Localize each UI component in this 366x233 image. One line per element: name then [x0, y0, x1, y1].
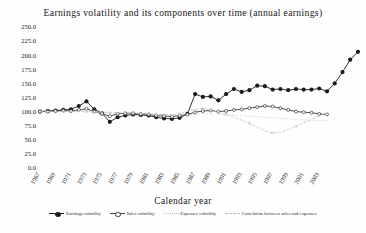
legend-label: Earnings volatility	[66, 211, 101, 216]
data-series-layer	[38, 50, 360, 134]
x-tick-label: 1989	[199, 171, 211, 185]
legend-swatch-icon	[225, 211, 240, 216]
x-tick-label: 1969	[44, 171, 56, 185]
x-tick-label: 2003	[308, 171, 320, 185]
x-axis-tick-labels: 1967196919711973197519771979198119831985…	[29, 171, 320, 185]
data-point-marker	[348, 58, 352, 62]
data-point-marker	[302, 88, 306, 92]
data-point-marker	[108, 120, 112, 124]
legend-swatch-icon	[110, 211, 125, 216]
data-point-marker	[147, 113, 150, 116]
y-tick-label: 125.0	[21, 94, 37, 101]
data-point-marker	[356, 50, 360, 54]
x-tick-label: 1977	[106, 171, 118, 185]
legend-item[interactable]: Correlation between sales and expenses	[225, 211, 316, 216]
data-point-marker	[263, 105, 266, 108]
data-point-marker	[333, 81, 337, 85]
x-tick-label: 1973	[75, 171, 87, 185]
data-point-marker	[240, 90, 244, 94]
y-tick-label: 75.0	[24, 122, 36, 129]
x-tick-label: 1993	[230, 171, 242, 185]
data-point-marker	[209, 94, 213, 98]
y-tick-label: 100.0	[21, 108, 37, 115]
legend-label: Expenses volatility	[180, 211, 216, 216]
data-point-marker	[186, 113, 189, 116]
y-tick-label: 150.0	[21, 80, 37, 87]
data-point-marker	[216, 98, 220, 102]
y-tick-label: 0.0	[28, 164, 37, 171]
data-point-marker	[70, 110, 73, 113]
y-axis-tick-labels: 0.025.050.075.0100.0125.0150.0175.0200.0…	[21, 23, 37, 171]
data-point-marker	[248, 107, 251, 110]
y-tick-label: 25.0	[24, 150, 36, 157]
x-tick-label: 1997	[261, 171, 273, 185]
data-point-marker	[108, 115, 111, 118]
x-tick-label: 1971	[60, 171, 72, 185]
legend-item[interactable]: Sales volatility	[110, 211, 155, 216]
data-point-marker	[286, 88, 290, 92]
chart-legend: Earnings volatilitySales volatilityExpen…	[0, 211, 366, 216]
x-tick-label: 1981	[137, 171, 149, 185]
data-point-marker	[77, 108, 80, 111]
data-point-marker	[170, 115, 173, 118]
x-tick-label: 1967	[29, 171, 41, 185]
data-point-marker	[271, 88, 275, 92]
data-point-marker	[340, 70, 344, 74]
legend-swatch-icon	[164, 211, 179, 216]
data-point-marker	[54, 110, 57, 113]
data-point-marker	[271, 105, 274, 108]
series-line	[40, 108, 327, 133]
data-point-marker	[85, 107, 88, 110]
data-point-marker	[225, 110, 228, 113]
x-tick-label: 1975	[91, 171, 103, 185]
data-point-marker	[317, 86, 321, 90]
data-point-marker	[295, 110, 298, 113]
data-point-marker	[302, 111, 305, 114]
y-tick-label: 200.0	[21, 52, 37, 59]
x-tick-label: 1987	[184, 171, 196, 185]
legend-item[interactable]: Expenses volatility	[164, 211, 217, 216]
x-axis-title: Calendar year	[0, 196, 366, 206]
chart-figure: Earnings volatility and its components o…	[0, 0, 366, 233]
x-tick-label: 1995	[246, 171, 258, 185]
data-point-marker	[309, 88, 313, 92]
data-point-marker	[77, 104, 81, 108]
data-point-marker	[278, 87, 282, 91]
x-tick-label: 1999	[277, 171, 289, 185]
x-tick-label: 1991	[215, 171, 227, 185]
y-tick-label: 250.0	[21, 23, 37, 30]
data-point-marker	[255, 84, 259, 88]
data-point-marker	[240, 108, 243, 111]
data-point-marker	[201, 110, 204, 113]
data-point-marker	[201, 95, 205, 99]
legend-item[interactable]: Earnings volatility	[49, 211, 101, 216]
data-point-marker	[310, 111, 313, 114]
x-tick-label: 1985	[168, 171, 180, 185]
legend-swatch-icon	[49, 211, 64, 216]
data-point-marker	[294, 87, 298, 91]
y-tick-label: 175.0	[21, 66, 37, 73]
data-point-marker	[279, 107, 282, 110]
x-tick-label: 2001	[292, 171, 304, 185]
data-point-marker	[247, 88, 251, 92]
legend-label: Correlation between sales and expenses	[242, 211, 317, 216]
data-point-marker	[287, 108, 290, 111]
legend-label: Sales volatility	[126, 211, 154, 216]
data-point-marker	[325, 89, 329, 93]
data-point-marker	[163, 115, 166, 118]
data-point-marker	[232, 108, 235, 111]
data-point-marker	[194, 111, 197, 114]
y-tick-label: 50.0	[24, 136, 36, 143]
data-point-marker	[93, 110, 96, 113]
x-tick-label: 1979	[122, 171, 134, 185]
x-tick-label: 1983	[153, 171, 165, 185]
data-point-marker	[256, 106, 259, 109]
data-point-marker	[84, 99, 88, 103]
data-point-marker	[193, 92, 197, 96]
y-tick-label: 225.0	[21, 37, 37, 44]
data-point-marker	[224, 92, 228, 96]
data-point-marker	[232, 87, 236, 91]
data-point-marker	[263, 84, 267, 88]
